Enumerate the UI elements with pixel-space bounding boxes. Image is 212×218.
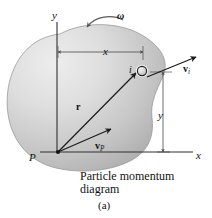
position-vector-label: r	[76, 102, 80, 112]
origin-point-marker	[56, 150, 60, 154]
velocity-p-subscript: P	[100, 145, 104, 153]
angular-velocity-label: ω	[117, 11, 124, 21]
dimension-x-label: x	[103, 46, 108, 57]
axis-x-label: x	[196, 150, 201, 161]
velocity-i-label: vi	[183, 64, 190, 76]
particle-index-label: i	[129, 65, 132, 75]
velocity-i-subscript: i	[188, 68, 190, 76]
origin-point-label: P	[29, 152, 36, 163]
axis-y-label: y	[52, 10, 57, 21]
rigid-body-shape	[7, 25, 165, 171]
velocity-p-label: vP	[95, 141, 104, 153]
particle-circle-icon	[136, 65, 148, 77]
figure-number-label: (a)	[98, 199, 110, 211]
figure-caption: Particle momentum diagram	[80, 170, 174, 196]
particle-momentum-figure: y x x y ω i r vP vi P Particle momentum …	[0, 0, 212, 218]
dimension-y-label: y	[158, 110, 163, 121]
caption-line-2: diagram	[80, 183, 174, 196]
